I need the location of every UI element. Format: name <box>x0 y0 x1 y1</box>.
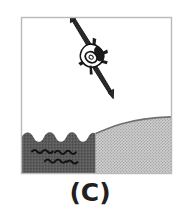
figure-panel: (C) <box>0 0 180 218</box>
panel-caption: (C) <box>0 176 180 210</box>
